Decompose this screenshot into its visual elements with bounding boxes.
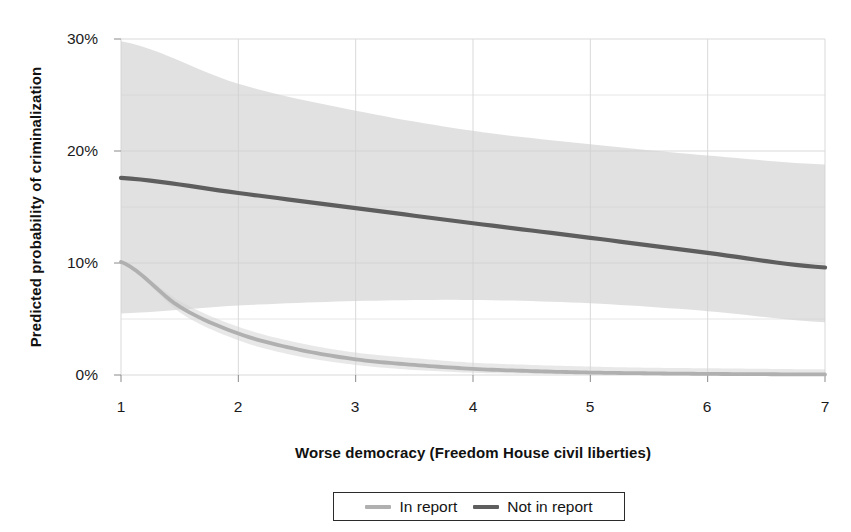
legend-swatch-in-report [365,505,391,509]
legend-label-in-report: In report [399,498,457,516]
chart-container: Predicted probability of criminalization… [0,0,851,532]
legend-entry-not-in-report[interactable]: Not in report [473,498,592,516]
legend-entry-in-report[interactable]: In report [365,498,457,516]
x-axis-title: Worse democracy (Freedom House civil lib… [121,444,825,461]
legend: In report Not in report [333,492,625,521]
legend-swatch-not-in-report [473,505,499,509]
legend-label-not-in-report: Not in report [507,498,592,516]
